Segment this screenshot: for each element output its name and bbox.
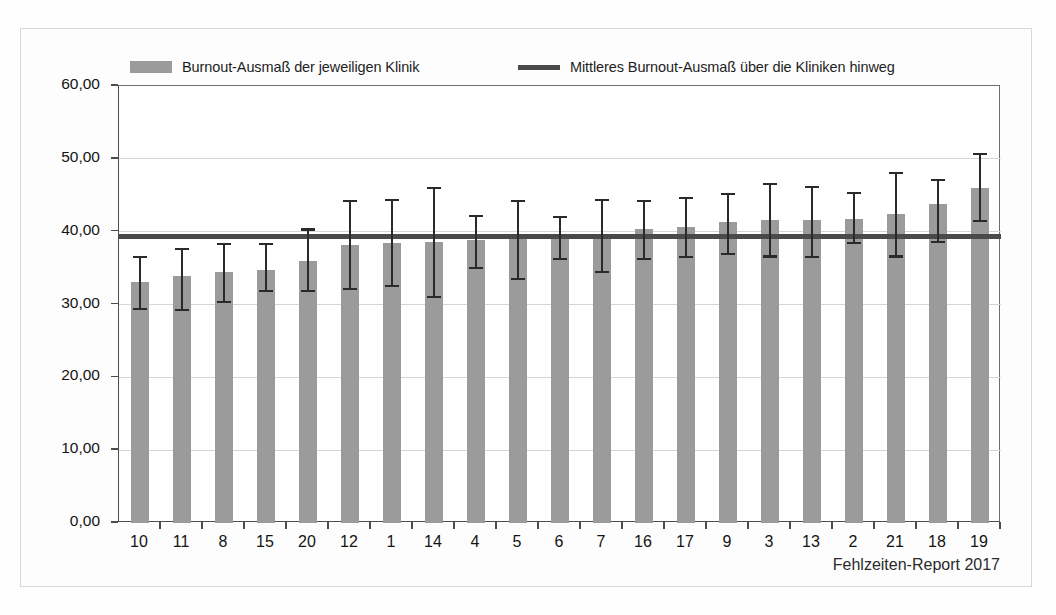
y-axis-tick-mark <box>111 521 118 523</box>
bar <box>719 222 737 523</box>
x-axis-tick-mark <box>915 522 916 529</box>
x-axis-label: 9 <box>707 533 747 551</box>
gridline <box>119 158 1001 159</box>
source-note: Fehlzeiten-Report 2017 <box>833 556 1000 574</box>
error-bar-line <box>223 244 225 302</box>
y-axis-tick-mark <box>111 230 118 232</box>
chart-page: Burnout-Ausmaß der jeweiligen Klinik Mit… <box>0 0 1056 615</box>
chart-legend: Burnout-Ausmaß der jeweiligen Klinik Mit… <box>118 55 1008 79</box>
legend-item-line: Mittleres Burnout-Ausmaß über die Klinik… <box>518 55 895 79</box>
error-bar-cap-upper <box>511 200 525 202</box>
y-axis-tick-mark <box>111 376 118 378</box>
y-axis-label: 30,00 <box>30 294 100 312</box>
error-bar-cap-lower <box>805 256 819 258</box>
error-bar-cap-lower <box>511 278 525 280</box>
x-axis-label: 3 <box>749 533 789 551</box>
x-axis-label: 6 <box>539 533 579 551</box>
x-axis-tick-mark <box>327 522 328 529</box>
x-axis-tick-mark <box>579 522 580 529</box>
error-bar-line <box>895 173 897 257</box>
x-axis-tick-mark <box>999 522 1000 529</box>
bar <box>299 261 317 523</box>
error-bar-cap-upper <box>763 183 777 185</box>
legend-bar-swatch-icon <box>130 61 172 73</box>
error-bar-cap-upper <box>343 200 357 202</box>
x-axis-label: 4 <box>455 533 495 551</box>
error-bar-cap-lower <box>343 288 357 290</box>
error-bar-cap-lower <box>931 241 945 243</box>
error-bar-cap-lower <box>889 255 903 257</box>
y-axis-label: 40,00 <box>30 221 100 239</box>
error-bar-cap-lower <box>595 271 609 273</box>
y-axis-tick-mark <box>111 448 118 450</box>
legend-item-bar: Burnout-Ausmaß der jeweiligen Klinik <box>130 55 419 79</box>
x-axis-label: 7 <box>581 533 621 551</box>
error-bar-cap-upper <box>259 243 273 245</box>
bar <box>845 219 863 523</box>
x-axis-label: 2 <box>833 533 873 551</box>
x-axis-label: 20 <box>287 533 327 551</box>
error-bar-cap-lower <box>847 242 861 244</box>
x-axis-tick-mark <box>411 522 412 529</box>
plot-wrapper <box>118 85 1000 522</box>
error-bar-cap-lower <box>175 309 189 311</box>
bar <box>593 235 611 523</box>
error-bar-cap-upper <box>133 256 147 258</box>
bar <box>257 270 275 523</box>
y-axis-tick-mark <box>111 157 118 159</box>
x-axis-label: 14 <box>413 533 453 551</box>
error-bar-cap-lower <box>469 267 483 269</box>
error-bar-line <box>139 257 141 309</box>
error-bar-line <box>811 187 813 258</box>
x-axis-tick-mark <box>285 522 286 529</box>
x-axis-tick-mark <box>495 522 496 529</box>
x-axis-label: 5 <box>497 533 537 551</box>
bar <box>131 282 149 523</box>
y-axis-label: 50,00 <box>30 148 100 166</box>
legend-bar-label: Burnout-Ausmaß der jeweiligen Klinik <box>182 59 419 75</box>
error-bar-cap-lower <box>427 296 441 298</box>
error-bar-line <box>265 244 267 291</box>
bar <box>509 238 527 523</box>
x-axis-label: 19 <box>959 533 999 551</box>
x-axis-label: 10 <box>119 533 159 551</box>
x-axis-tick-mark <box>369 522 370 529</box>
x-axis-tick-mark <box>201 522 202 529</box>
error-bar-cap-lower <box>973 220 987 222</box>
error-bar-line <box>853 193 855 243</box>
error-bar-line <box>979 154 981 221</box>
x-axis-label: 11 <box>161 533 201 551</box>
y-axis-label: 20,00 <box>30 366 100 384</box>
legend-line-swatch-icon <box>518 65 560 70</box>
bar <box>887 214 905 523</box>
x-axis-tick-mark <box>663 522 664 529</box>
bar <box>173 276 191 523</box>
error-bar-cap-upper <box>721 193 735 195</box>
bar <box>929 204 947 523</box>
y-axis-tick-mark <box>111 84 118 86</box>
error-bar-cap-upper <box>217 243 231 245</box>
error-bar-cap-upper <box>469 215 483 217</box>
error-bar-cap-lower <box>721 253 735 255</box>
x-axis-tick-mark <box>537 522 538 529</box>
x-axis-label: 8 <box>203 533 243 551</box>
error-bar-cap-lower <box>385 285 399 287</box>
error-bar-line <box>559 217 561 259</box>
x-axis-label: 16 <box>623 533 663 551</box>
error-bar-cap-lower <box>553 258 567 260</box>
error-bar-cap-upper <box>805 186 819 188</box>
x-axis-label: 12 <box>329 533 369 551</box>
error-bar-line <box>433 188 435 297</box>
error-bar-line <box>685 198 687 257</box>
error-bar-cap-upper <box>973 153 987 155</box>
y-axis-label: 60,00 <box>30 75 100 93</box>
error-bar-cap-lower <box>259 290 273 292</box>
error-bar-line <box>601 200 603 271</box>
error-bar-cap-upper <box>679 197 693 199</box>
error-bar-line <box>937 180 939 242</box>
error-bar-line <box>391 200 393 286</box>
error-bar-cap-upper <box>931 179 945 181</box>
x-axis-tick-mark <box>159 522 160 529</box>
error-bar-cap-lower <box>217 301 231 303</box>
error-bar-line <box>181 249 183 309</box>
